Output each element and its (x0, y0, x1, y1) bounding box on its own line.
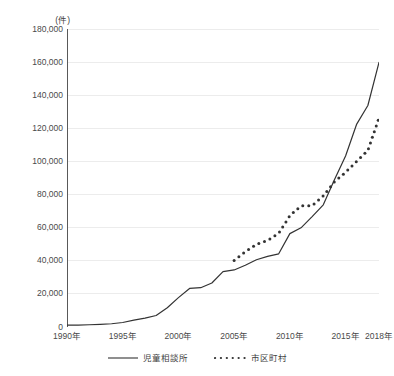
series-dot (273, 234, 276, 237)
x-axis-tick-label: 2000年 (164, 332, 192, 341)
series-dot (342, 173, 345, 176)
series-dot (373, 130, 376, 133)
series-dot (237, 255, 240, 258)
series-dot (377, 119, 379, 122)
plot-area (67, 29, 379, 327)
line-chart: (件) 020,00040,00060,00080,000100,000120,… (0, 0, 394, 376)
axis-lines (67, 29, 379, 327)
series-dot (288, 215, 291, 218)
y-axis-tick-label: 20,000 (3, 289, 63, 298)
series-dot (263, 240, 266, 243)
series-dot (242, 252, 245, 255)
x-axis-tick-label: 1990年 (53, 332, 81, 341)
series-dot (317, 199, 320, 202)
legend-label-child-guidance-center: 児童相談所 (143, 354, 188, 363)
y-axis-tick-label: 160,000 (3, 58, 63, 67)
series-dot (268, 237, 271, 240)
series-dot (369, 142, 372, 145)
series-dot (359, 156, 362, 159)
x-axis-tick-label: 2018年 (365, 332, 393, 341)
x-axis-tick-label: 1995年 (109, 332, 137, 341)
series-dot (337, 177, 340, 180)
series-dot (333, 181, 336, 184)
series-dot (351, 164, 354, 167)
x-axis-tick-label: 2015年 (332, 332, 360, 341)
y-axis-tick-label: 0 (3, 323, 63, 332)
series-dot (313, 203, 316, 206)
series-dot (296, 207, 299, 210)
chart-legend: 児童相談所 市区町村 (0, 354, 394, 363)
series-dot (322, 195, 325, 198)
series-dot (252, 245, 255, 248)
series-dot (292, 211, 295, 214)
y-axis-tick-label: 140,000 (3, 91, 63, 100)
gridlines (67, 29, 379, 294)
y-axis-tick-labels: 020,00040,00060,00080,000100,000120,0001… (0, 0, 63, 376)
series-child-guidance-center (67, 62, 379, 325)
legend-label-municipality: 市区町村 (251, 354, 287, 363)
legend-item-municipality: 市区町村 (214, 354, 287, 363)
plot-svg (67, 29, 379, 327)
y-axis-tick-label: 60,000 (3, 223, 63, 232)
series-dot (371, 136, 374, 139)
series-dot (363, 152, 366, 155)
y-axis-tick-label: 120,000 (3, 124, 63, 133)
solid-line-icon (108, 354, 138, 362)
series-dot (346, 169, 349, 172)
series-dot (233, 259, 236, 262)
series-dot (367, 147, 370, 150)
series-dot (301, 204, 304, 207)
x-axis-tick-labels: 1990年1995年2000年2005年2010年2015年2018年 (0, 332, 394, 348)
y-axis-tick-label: 180,000 (3, 25, 63, 34)
x-axis-tick-label: 2010年 (276, 332, 304, 341)
series-dot (355, 160, 358, 163)
series-dot (247, 248, 250, 251)
series-dot (278, 231, 281, 234)
dotted-line-icon (214, 354, 246, 362)
series-dot (281, 225, 284, 228)
series-municipality (233, 119, 379, 262)
series-dot (325, 190, 328, 193)
data-series-layer (67, 62, 379, 325)
series-dot (257, 242, 260, 245)
series-dot (375, 124, 378, 127)
legend-item-child-guidance-center: 児童相談所 (108, 354, 188, 363)
y-axis-tick-label: 40,000 (3, 256, 63, 265)
x-axis-tick-label: 2005年 (220, 332, 248, 341)
series-dot (284, 220, 287, 223)
y-axis-tick-label: 80,000 (3, 190, 63, 199)
series-dot (329, 185, 332, 188)
series-dot (307, 204, 310, 207)
y-axis-tick-label: 100,000 (3, 157, 63, 166)
